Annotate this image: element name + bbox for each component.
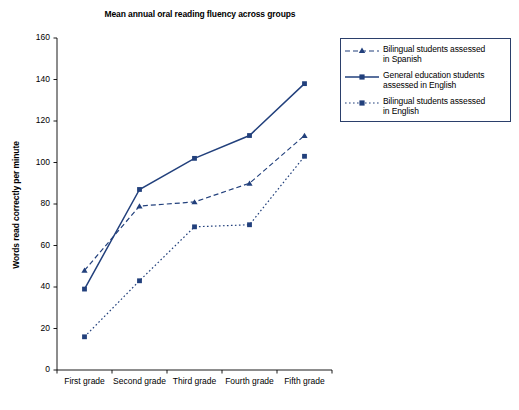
legend-item: Bilingual students assessedin English bbox=[345, 96, 505, 116]
y-tick-label: 0 bbox=[24, 365, 50, 374]
y-tick-label: 40 bbox=[24, 282, 50, 291]
y-tick-label: 160 bbox=[24, 33, 50, 42]
data-series bbox=[81, 81, 307, 339]
legend-label-line1: Bilingual students assessed bbox=[383, 96, 485, 106]
data-point-marker bbox=[247, 133, 252, 138]
legend-label: Bilingual students assessedin English bbox=[383, 96, 485, 116]
legend-swatch-dashed bbox=[345, 45, 379, 57]
series-line bbox=[85, 84, 305, 289]
legend-swatch-solid bbox=[345, 71, 379, 83]
axes bbox=[54, 38, 333, 374]
x-tick-label: First grade bbox=[57, 376, 112, 386]
data-point-marker bbox=[136, 203, 142, 208]
chart-title: Mean annual oral reading fluency across … bbox=[0, 9, 400, 19]
data-point-marker bbox=[82, 334, 87, 339]
y-tick-label: 60 bbox=[24, 241, 50, 250]
data-point-marker bbox=[302, 154, 307, 159]
x-tick-label: Third grade bbox=[167, 376, 222, 386]
data-point-marker bbox=[137, 278, 142, 283]
series-line bbox=[85, 156, 305, 337]
y-tick-label: 120 bbox=[24, 116, 50, 125]
legend-label: General education studentsassessed in En… bbox=[383, 70, 484, 90]
data-point-marker bbox=[301, 133, 307, 138]
x-tick-label: Fourth grade bbox=[222, 376, 277, 386]
x-tick-label: Second grade bbox=[112, 376, 167, 386]
y-tick-label: 140 bbox=[24, 75, 50, 84]
chart-legend: Bilingual students assessedin Spanish Ge… bbox=[340, 38, 511, 122]
legend-label: Bilingual students assessedin Spanish bbox=[383, 44, 485, 64]
y-tick-label: 80 bbox=[24, 199, 50, 208]
data-point-marker bbox=[137, 187, 142, 192]
data-point-marker bbox=[302, 81, 307, 86]
legend-label-line1: General education students bbox=[383, 70, 484, 80]
chart-figure: Mean annual oral reading fluency across … bbox=[0, 0, 519, 410]
data-point-marker bbox=[82, 287, 87, 292]
y-tick-label: 100 bbox=[24, 158, 50, 167]
x-tick-label: Fifth grade bbox=[277, 376, 332, 386]
legend-label-line1: Bilingual students assessed bbox=[383, 44, 485, 54]
data-point-marker bbox=[247, 222, 252, 227]
legend-label-line2: assessed in English bbox=[383, 80, 456, 90]
legend-item: Bilingual students assessedin Spanish bbox=[345, 44, 505, 64]
legend-item: General education studentsassessed in En… bbox=[345, 70, 505, 90]
data-point-marker bbox=[192, 156, 197, 161]
data-point-marker bbox=[192, 224, 197, 229]
legend-label-line2: in Spanish bbox=[383, 54, 422, 64]
legend-swatch-dotted bbox=[345, 97, 379, 109]
y-axis-title: Words read correctly per minute bbox=[11, 125, 21, 285]
legend-label-line2: in English bbox=[383, 106, 419, 116]
y-tick-label: 20 bbox=[24, 324, 50, 333]
